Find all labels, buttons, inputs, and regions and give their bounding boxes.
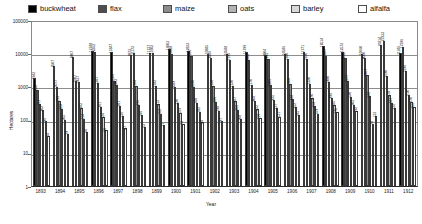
bar-value-label: 1077	[55, 80, 58, 87]
bar-alfalfa[interactable]: 39	[67, 134, 69, 186]
bar-value-label: 11602	[151, 45, 154, 54]
bar-value-label: 7295	[267, 53, 270, 60]
bar-value-label: 158	[160, 109, 163, 115]
bar-alfalfa[interactable]: 108	[240, 119, 242, 186]
bar-value-label: 393	[58, 96, 61, 102]
bar-value-label: 114	[83, 114, 86, 119]
bar-value-label: 7196	[228, 53, 231, 60]
bar-group: 11186173963196610370255	[398, 22, 417, 186]
bar-alfalfa[interactable]: 57	[124, 128, 126, 186]
bar-value-label: 1347	[96, 77, 99, 84]
bar-alfalfa[interactable]: 50	[105, 130, 107, 186]
x-tick-label: 1899	[147, 189, 166, 199]
bar-value-label: 194	[217, 106, 220, 112]
bar-value-label: 79	[182, 121, 185, 125]
x-tick-label: 1893	[31, 189, 50, 199]
bar-value-label: 610	[407, 90, 410, 96]
bar-alfalfa[interactable]: 88	[201, 122, 203, 186]
x-tick-label: 1898	[128, 189, 147, 199]
bar-value-label: 387	[234, 97, 237, 103]
bar-group: 987311172114429614663	[128, 22, 147, 186]
bar-alfalfa[interactable]: 145	[298, 115, 300, 186]
bar-value-label: 858	[36, 85, 39, 91]
bar-value-label: 242	[80, 103, 83, 109]
bar-group: 1173711602114231215871	[148, 22, 167, 186]
bar-value-label: 182	[198, 107, 201, 113]
y-tick-label: 100000	[2, 19, 28, 24]
bar-value-label: 159	[316, 109, 319, 115]
bar-value-label: 1120	[231, 80, 234, 87]
bar-value-label: 131	[278, 112, 281, 118]
bar-value-label: 208	[237, 105, 240, 111]
bar-value-label: 8246	[209, 51, 212, 58]
bar-group: 19428583112029634	[32, 22, 51, 186]
bar-group: 1177172401320470268159	[302, 22, 321, 186]
plot-area: 1942858311202963445071077393223105398407…	[31, 21, 418, 187]
y-tick-label: 1	[2, 185, 28, 190]
bar-value-label: 18514	[322, 38, 325, 47]
bar-value-label: 50	[105, 128, 108, 132]
bar-value-label: 366	[215, 97, 218, 103]
x-tick-label: 1896	[89, 189, 108, 199]
bar-alfalfa[interactable]: 232	[394, 108, 396, 186]
bar-alfalfa[interactable]: 97	[221, 121, 223, 186]
bar-value-label: 2407	[366, 69, 369, 76]
y-tick-label: 100	[2, 118, 28, 123]
bar-group: 106608000240754878133	[359, 22, 378, 186]
bar-value-label: 448	[292, 95, 295, 101]
y-tick-label: 10000	[2, 52, 28, 57]
bar-value-label: 1300	[289, 78, 292, 85]
bar-chart: buckwheatflaxmaizeoatsbarleyalfalfa 1000…	[0, 0, 422, 224]
bar-value-label: 169	[179, 108, 182, 114]
bar-alfalfa[interactable]: 255	[413, 107, 415, 186]
x-tick-label: 1902	[205, 189, 224, 199]
bar-value-label: 202	[41, 106, 44, 112]
bar-alfalfa[interactable]: 192	[355, 111, 357, 186]
bar-group: 20214272332190578347232	[379, 22, 398, 186]
bar-value-label: 108	[239, 115, 242, 121]
bar-value-label: 255	[413, 103, 416, 109]
bar-value-label: 96	[44, 118, 47, 122]
bar-alfalfa[interactable]: 159	[317, 114, 319, 186]
bar-value-label: 261	[99, 102, 102, 108]
bar-group: 1058871961120387208108	[225, 22, 244, 186]
bar-value-label: 548	[369, 92, 372, 98]
bar-alfalfa[interactable]: 119	[259, 118, 261, 186]
bar-value-label: 6904	[247, 54, 250, 61]
bar-alfalfa[interactable]: 175	[336, 112, 338, 186]
x-axis-labels: 1893189418951896189718981899190019011902…	[31, 189, 418, 199]
bar-alfalfa[interactable]: 79	[182, 124, 184, 186]
bar-group: 1257280421577520305192	[340, 22, 359, 186]
x-tick-label: 1912	[399, 189, 418, 199]
bar-value-label: 63	[143, 124, 146, 128]
bar-value-label: 404	[253, 96, 256, 102]
bar-group: 1460310348104933016979	[167, 22, 186, 186]
bar-alfalfa[interactable]: 71	[163, 125, 165, 186]
bar-value-label: 175	[336, 108, 339, 114]
bar-alfalfa[interactable]: 131	[278, 117, 280, 186]
bar-value-label: 496	[330, 93, 333, 99]
bar-value-label: 11799	[245, 45, 248, 54]
bar-value-label: 1080	[193, 80, 196, 87]
x-tick-label: 1901	[186, 189, 205, 199]
bar-alfalfa[interactable]: 63	[144, 127, 146, 186]
bar-value-label: 281	[118, 101, 121, 107]
bar-value-label: 286	[333, 101, 336, 107]
bar-value-label: 1170	[250, 79, 253, 86]
bar-value-label: 9186	[190, 50, 193, 57]
bar-value-label: 1206	[270, 79, 273, 86]
bar-value-label: 7240	[305, 53, 308, 60]
bar-alfalfa[interactable]: 34	[47, 136, 49, 186]
x-tick-label: 1906	[282, 189, 301, 199]
bar-group: 1179969041170404222119	[244, 22, 263, 186]
x-tick-label: 1908	[321, 189, 340, 199]
y-tick-label: 1000	[2, 85, 28, 90]
bar-value-label: 34	[47, 133, 50, 137]
bar-alfalfa[interactable]: 44	[86, 132, 88, 186]
bar-value-label: 9347	[324, 49, 327, 56]
bar-alfalfa[interactable]: 133	[375, 116, 377, 186]
x-tick-label: 1895	[70, 189, 89, 199]
bar-value-label: 8042	[344, 52, 347, 59]
bar-value-label: 223	[61, 104, 64, 110]
bar-value-label: 39	[66, 131, 69, 135]
